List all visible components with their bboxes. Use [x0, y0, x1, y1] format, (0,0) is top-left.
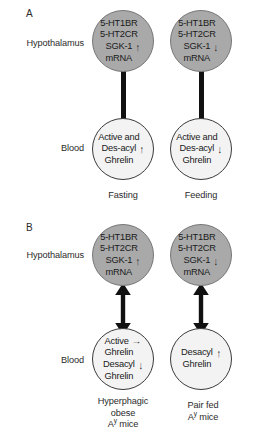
arrow-up-icon: ↑	[140, 144, 144, 154]
panel-b-hypothalamus-node-pairfed: 5-HT1BR↑5-HT2CR↑SGK-1↓mRNA↑	[170, 224, 232, 286]
node-text: Ghrelin	[183, 155, 212, 167]
node-text-line: Ghrelin↑	[105, 371, 142, 383]
node-text-line: 5-HT2CR↑	[178, 29, 224, 41]
node-text: SGK-1	[105, 255, 132, 267]
node-text-line: 5-HT2CR↑	[178, 243, 224, 255]
node-text: 5-HT1BR	[178, 18, 215, 30]
node-text: Ghrelin	[105, 371, 134, 383]
node-text-line: Ghrelin↑	[183, 155, 220, 167]
node-text-line: 5-HT1BR↑	[178, 18, 224, 30]
panel-a-blood-node-feeding: Active and↑Des-acyl↓Ghrelin↑	[170, 118, 232, 180]
node-text-line: 5-HT1BR↑	[100, 232, 146, 244]
panel-b-blood-node-hyperphagic: Active→Ghrelin↑Desacyl↓Ghrelin↑	[92, 328, 154, 390]
node-text-line: Desacyl↑	[181, 347, 221, 359]
caption-line-2: obese	[86, 408, 160, 420]
node-text: Ghrelin	[105, 347, 134, 359]
node-text-line: Desacyl↓	[103, 359, 143, 371]
node-text-line: SGK-1↑	[105, 41, 140, 53]
node-text: Ghrelin	[183, 359, 212, 371]
node-text: 5-HT1BR	[100, 18, 137, 30]
node-text-line: Ghrelin↑	[183, 359, 220, 371]
panel-a-hypothalamus-label: Hypothalamus	[6, 38, 84, 48]
node-text: mRNA	[184, 53, 211, 65]
panel-b-blood-node-pairfed: Desacyl↑Ghrelin↑	[170, 328, 232, 390]
node-text: Active and	[176, 132, 217, 144]
panel-a-caption-fasting: Fasting	[88, 190, 158, 202]
node-text: Active	[105, 336, 129, 348]
panel-b-hypothalamus-node-hyperphagic: 5-HT1BR↑5-HT2CR↑SGK-1↑mRNA↑	[92, 224, 154, 286]
arrow-up-icon: ↑	[136, 42, 140, 52]
node-text-line: SGK-1↓	[183, 255, 218, 267]
node-text: 5-HT2CR	[100, 29, 138, 41]
panel-a-letter: A	[26, 8, 33, 19]
node-text-line: Des-acyl↓	[180, 143, 223, 155]
node-text-line: Ghrelin↑	[105, 155, 142, 167]
node-text: Ghrelin	[105, 155, 134, 167]
arrow-down-icon: ↓	[214, 42, 218, 52]
node-text-line: SGK-1↓	[183, 41, 218, 53]
node-text: 5-HT1BR	[178, 232, 215, 244]
node-text: Desacyl	[181, 347, 213, 359]
genotype-suffix: mice	[197, 412, 218, 422]
node-text-line: 5-HT1BR↑	[178, 232, 224, 244]
arrow-right-icon: →	[132, 338, 142, 346]
node-text: 5-HT1BR	[100, 232, 137, 244]
node-text: Desacyl	[103, 359, 135, 371]
node-text-line: Active and↑	[176, 132, 226, 144]
panel-a-blood-node-fasting: Active and↑Des-acyl↑Ghrelin↑	[92, 118, 154, 180]
node-text: Active and	[98, 132, 139, 144]
node-text-line: Active→	[105, 336, 142, 348]
node-text-line: Active and↑	[98, 132, 148, 144]
node-text-line: 5-HT2CR↑	[100, 29, 146, 41]
node-text: 5-HT2CR	[178, 29, 216, 41]
arrow-up-icon: ↑	[216, 348, 220, 358]
node-text-line: mRNA↑	[106, 53, 141, 65]
panel-a-connector-right	[199, 66, 204, 124]
node-text: SGK-1	[183, 255, 210, 267]
node-text: mRNA	[184, 267, 211, 279]
caption-genotype: Ay mice	[166, 412, 240, 424]
panel-a-hypothalamus-node-fasting: 5-HT1BR↑5-HT2CR↑SGK-1↑mRNA↑	[92, 10, 154, 72]
arrow-down-icon: ↓	[218, 144, 222, 154]
node-text-line: Ghrelin↑	[105, 347, 142, 359]
node-text: 5-HT2CR	[178, 243, 216, 255]
node-text-line: SGK-1↑	[105, 255, 140, 267]
node-text: mRNA	[106, 53, 133, 65]
genotype-suffix: mice	[117, 419, 138, 429]
figure-canvas: A Hypothalamus Blood 5-HT1BR↑5-HT2CR↑SGK…	[0, 0, 254, 439]
panel-b-blood-label: Blood	[6, 355, 84, 365]
node-text: SGK-1	[183, 41, 210, 53]
panel-b-caption-hyperphagic: HyperphagicobeseAy mice	[86, 396, 160, 431]
node-text: 5-HT2CR	[100, 243, 138, 255]
node-text: Des-acyl	[180, 143, 215, 155]
node-text-line: 5-HT1BR↑	[100, 18, 146, 30]
panel-b-letter: B	[26, 222, 33, 233]
caption-genotype: Ay mice	[86, 419, 160, 431]
node-text-line: mRNA↑	[184, 53, 219, 65]
arrow-up-icon: ↑	[136, 256, 140, 266]
arrow-down-icon: ↓	[214, 256, 218, 266]
node-text-line: mRNA↑	[184, 267, 219, 279]
panel-a-hypothalamus-node-feeding: 5-HT1BR↑5-HT2CR↑SGK-1↓mRNA↑	[170, 10, 232, 72]
node-text: SGK-1	[105, 41, 132, 53]
caption-line-1: Hyperphagic	[86, 396, 160, 408]
node-text-line: Des-acyl↑	[102, 143, 145, 155]
arrow-down-icon: ↓	[138, 360, 142, 370]
node-text: Des-acyl	[102, 143, 137, 155]
panel-a-connector-left	[121, 66, 126, 124]
caption-line-1: Pair fed	[166, 400, 240, 412]
panel-b-hypothalamus-label: Hypothalamus	[6, 250, 84, 260]
node-text-line: 5-HT2CR↑	[100, 243, 146, 255]
panel-a-blood-label: Blood	[6, 143, 84, 153]
panel-b-caption-pairfed: Pair fedAy mice	[166, 400, 240, 423]
panel-a-caption-feeding: Feeding	[166, 190, 236, 202]
node-text-line: mRNA↑	[106, 267, 141, 279]
node-text: mRNA	[106, 267, 133, 279]
